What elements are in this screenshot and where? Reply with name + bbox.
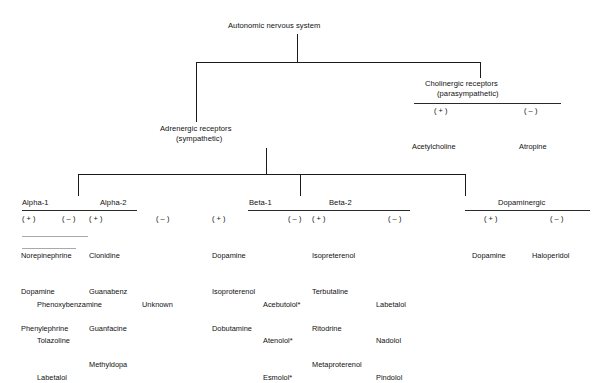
receptor-split-bar	[78, 174, 466, 175]
beta1-antagonist-list: Acebutolol* Atenolol* Esmolol* Labetalol…	[263, 275, 301, 383]
beta1-antagonist-sign: ( – )	[288, 214, 301, 225]
root-split-bar	[196, 62, 481, 63]
list-item: Isoproterenol	[212, 286, 255, 298]
cholinergic-antagonist-list: Atropine	[519, 117, 547, 177]
list-item: Esmolol*	[263, 372, 301, 383]
dopaminergic-label: Dopaminergic	[498, 198, 545, 209]
cholinergic-rule	[414, 103, 561, 104]
alpha-rule	[22, 210, 137, 211]
list-item: Haloperidol	[532, 250, 569, 262]
beta2-antagonist-list: Labetalol Nadolol Pindolol Propranolol T…	[376, 275, 414, 383]
beta-group-connector	[300, 174, 301, 196]
alpha1-antagonist-sign: ( – )	[62, 214, 75, 225]
scan-artifact-line	[22, 248, 76, 249]
dopaminergic-antagonist-sign: ( – )	[550, 214, 563, 225]
dopaminergic-group-connector	[465, 174, 466, 196]
list-item: Pindolol	[376, 372, 414, 383]
adrenergic-node-label-line1: Adrenergic receptors	[160, 124, 232, 135]
beta1-agonist-list: Dopamine Isoproterenol Dobutamine	[212, 226, 255, 359]
beta2-agonist-list: Isopreterenol Terbutaline Ritodrine Meta…	[312, 226, 362, 383]
list-item: Atenolol*	[263, 335, 301, 347]
adrenergic-branch-connector	[196, 62, 197, 122]
alpha1-label: Alpha-1	[22, 198, 49, 209]
beta1-agonist-sign: ( + )	[212, 214, 226, 225]
cholinergic-agonist-sign: ( + )	[434, 106, 448, 117]
list-item: Nadolol	[376, 335, 414, 347]
alpha2-agonist-sign: ( + )	[89, 214, 103, 225]
list-item: Dopamine	[472, 250, 506, 262]
list-item: Ritodrine	[312, 323, 362, 335]
scan-artifact-line	[22, 236, 88, 237]
list-item: Metaproterenol	[312, 359, 362, 371]
list-item: Terbutaline	[312, 286, 362, 298]
list-item: Tolazoline	[37, 335, 102, 347]
list-item: Isopreterenol	[312, 250, 362, 262]
alpha-group-connector	[78, 174, 79, 196]
root-node-label: Autonomic nervous system	[228, 21, 320, 32]
list-item: Phenoxybenzamine	[37, 299, 102, 311]
dopaminergic-agonist-sign: ( + )	[484, 214, 498, 225]
beta2-label: Beta-2	[329, 198, 352, 209]
alpha1-antagonist-list: Phenoxybenzamine Tolazoline Labetalol Pr…	[37, 275, 102, 383]
list-item: Dopamine	[212, 250, 255, 262]
alpha1-agonist-sign: ( + )	[22, 214, 36, 225]
list-item: Atropine	[519, 141, 547, 153]
list-item: Dobutamine	[212, 323, 255, 335]
beta2-antagonist-sign: ( – )	[388, 214, 401, 225]
adrenergic-stem-connector	[266, 148, 267, 174]
list-item: Labetalol	[376, 299, 414, 311]
alpha2-antagonist-sign: ( – )	[156, 214, 169, 225]
cholinergic-agonist-list: Acetylcholine	[412, 117, 456, 177]
cholinergic-branch-connector	[480, 62, 481, 78]
dopaminergic-antagonist-list: Haloperidol	[532, 226, 569, 286]
list-item: Acetylcholine	[412, 141, 456, 153]
alpha2-antagonist-list: Unknown	[142, 275, 173, 335]
cholinergic-antagonist-sign: ( – )	[524, 106, 537, 117]
alpha2-label: Alpha-2	[100, 198, 127, 209]
list-item: Labetalol	[37, 372, 102, 383]
cholinergic-node-label-line2: (parasympathetic)	[437, 89, 499, 100]
list-item: Unknown	[142, 299, 173, 311]
list-item: Clonidine	[89, 250, 127, 262]
beta1-label: Beta-1	[249, 198, 272, 209]
adrenergic-node-label-line2: (sympathetic)	[176, 134, 222, 145]
dopaminergic-rule	[465, 210, 590, 211]
root-stem-connector	[297, 34, 298, 62]
beta2-agonist-sign: ( + )	[312, 214, 326, 225]
beta-rule	[248, 210, 410, 211]
cholinergic-node-label-line1: Cholinergic receptors	[425, 79, 498, 90]
list-item: Norepinephrine	[21, 250, 72, 262]
dopaminergic-agonist-list: Dopamine	[472, 226, 506, 286]
list-item: Acebutolol*	[263, 299, 301, 311]
autonomic-nervous-system-diagram: Autonomic nervous system Cholinergic rec…	[0, 0, 596, 383]
